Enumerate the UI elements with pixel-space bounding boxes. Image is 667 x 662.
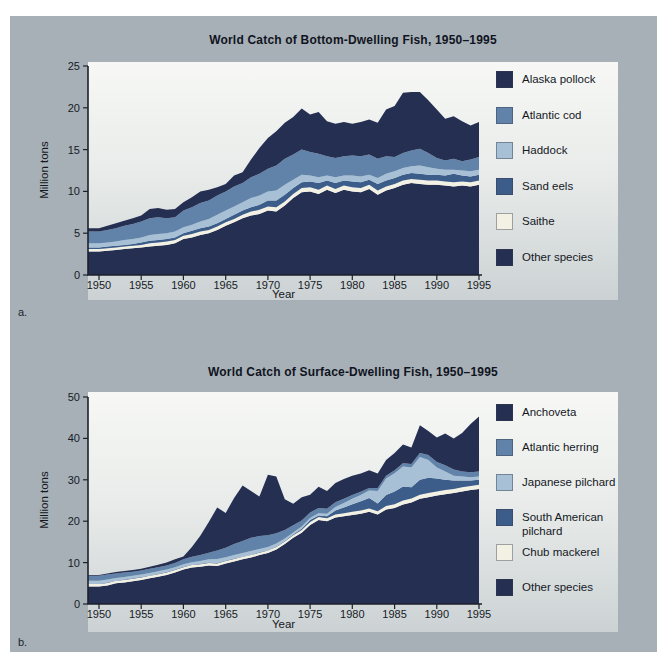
legend-label: Sand eels: [522, 178, 573, 193]
legend-label: Atlantic herring: [522, 439, 599, 454]
legend-label: Other species: [522, 579, 593, 594]
chart-a-title: World Catch of Bottom-Dwelling Fish, 195…: [88, 33, 618, 47]
legend-item-chub-mackerel: Chub mackerel: [496, 544, 616, 579]
legend-item-atlantic-herring: Atlantic herring: [496, 439, 616, 474]
legend-swatch-icon: [496, 509, 513, 526]
legend-item-japanese-pilchard: Japanese pilchard: [496, 474, 616, 509]
page-background: 0510152025195019551960196519701975198019…: [0, 0, 667, 662]
chart-b-plot: 0102030405019501955196019651970197519801…: [68, 391, 491, 620]
legend-item-other-species: Other species: [496, 579, 616, 614]
legend-item-anchoveta: Anchoveta: [496, 404, 616, 439]
chart-b-y-axis-label: Million tons: [38, 462, 50, 538]
legend-swatch-icon: [496, 544, 513, 561]
y-tick-label: 10: [68, 557, 80, 569]
legend-swatch-icon: [496, 439, 513, 456]
y-tick-label: 50: [68, 391, 80, 403]
legend-item-haddock: Haddock: [496, 142, 616, 178]
legend-label: Saithe: [522, 213, 555, 228]
legend-label: Alaska pollock: [522, 71, 596, 86]
y-tick-label: 30: [68, 474, 80, 486]
legend-swatch-icon: [496, 142, 513, 159]
chart-b-x-axis-label: Year: [88, 618, 479, 630]
legend-item-other-species: Other species: [496, 249, 616, 285]
legend-swatch-icon: [496, 404, 513, 421]
y-tick-label: 25: [68, 60, 80, 72]
legend-swatch-icon: [496, 474, 513, 491]
legend-item-alaska-pollock: Alaska pollock: [496, 71, 616, 107]
legend-item-saithe: Saithe: [496, 213, 616, 249]
legend-label: Atlantic cod: [522, 107, 581, 122]
legend-label: Other species: [522, 249, 593, 264]
chart-b-title: World Catch of Surface-Dwelling Fish, 19…: [88, 365, 618, 379]
legend-item-south-american-pilchard: South American pilchard: [496, 509, 616, 544]
legend-swatch-icon: [496, 71, 513, 88]
chart-a-x-axis-label: Year: [88, 288, 479, 300]
legend-swatch-icon: [496, 213, 513, 230]
legend-label: Haddock: [522, 142, 567, 157]
legend-swatch-icon: [496, 178, 513, 195]
chart-b-legend: Anchoveta Atlantic herring Japanese pilc…: [496, 404, 616, 614]
y-tick-label: 10: [68, 185, 80, 197]
legend-item-sand-eels: Sand eels: [496, 178, 616, 214]
legend-label: Japanese pilchard: [522, 474, 615, 489]
y-tick-label: 0: [74, 269, 80, 281]
legend-label: Anchoveta: [522, 404, 576, 419]
y-tick-label: 40: [68, 432, 80, 444]
y-tick-label: 15: [68, 144, 80, 156]
legend-swatch-icon: [496, 579, 513, 596]
panel-letter-b: b.: [18, 636, 27, 648]
y-tick-label: 20: [68, 102, 80, 114]
legend-label: South American pilchard: [522, 509, 616, 538]
chart-a-y-axis-label: Million tons: [38, 132, 50, 208]
y-tick-label: 20: [68, 515, 80, 527]
legend-item-atlantic-cod: Atlantic cod: [496, 107, 616, 143]
chart-a-plot: 0510152025195019551960196519701975198019…: [68, 60, 491, 291]
panel-letter-a: a.: [18, 306, 27, 318]
chart-a-legend: Alaska pollock Atlantic cod Haddock Sand…: [496, 71, 616, 284]
legend-swatch-icon: [496, 249, 513, 266]
legend-swatch-icon: [496, 107, 513, 124]
legend-label: Chub mackerel: [522, 544, 599, 559]
y-tick-label: 0: [74, 598, 80, 610]
y-tick-label: 5: [74, 227, 80, 239]
